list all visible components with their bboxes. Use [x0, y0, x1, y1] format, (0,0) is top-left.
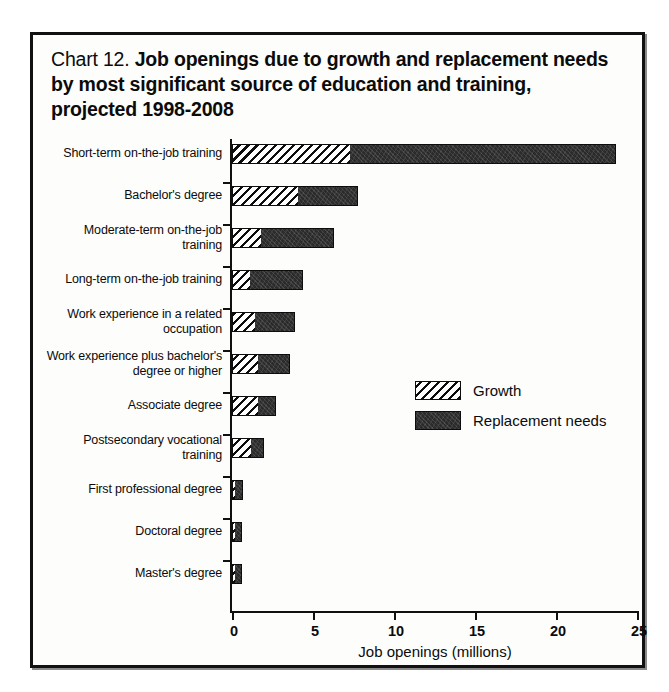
bar-row: Master's degree: [33, 561, 642, 603]
category-label: Bachelor's degree: [46, 188, 222, 203]
chart-title: Chart 12. Job openings due to growth and…: [51, 47, 611, 122]
bar-segment-growth: [232, 438, 251, 458]
bar-segment-growth: [232, 144, 350, 164]
category-label: Work experience plus bachelor's degree o…: [46, 349, 222, 378]
x-axis-tick-label: 20: [538, 623, 578, 639]
bar-segment-growth: [232, 396, 258, 416]
legend-item-growth: Growth: [415, 377, 625, 403]
x-axis-tick: [556, 611, 558, 620]
stacked-bar: [232, 186, 358, 206]
chart-title-main: Job openings due to growth and replaceme…: [51, 48, 608, 120]
x-axis-tick-label: 5: [295, 623, 335, 639]
bar-segment-replacement: [258, 396, 276, 416]
category-label: Postsecondary vocational training: [46, 433, 222, 462]
stacked-bar: [232, 354, 290, 374]
category-label: Associate degree: [46, 398, 222, 413]
bar-row: First professional degree: [33, 477, 642, 519]
bar-row: Long-term on-the-job training: [33, 267, 642, 309]
bar-segment-replacement: [255, 312, 296, 332]
x-axis-tick-label: 0: [214, 623, 254, 639]
bar-segment-growth: [232, 228, 261, 248]
category-label: Long-term on-the-job training: [46, 272, 222, 287]
chart-legend: Growth Replacement needs: [415, 377, 625, 437]
chart-figure-frame: Chart 12. Job openings due to growth and…: [30, 32, 645, 668]
stacked-bar: [232, 228, 334, 248]
bar-segment-replacement: [235, 480, 243, 500]
chart-title-prefix: Chart 12.: [51, 48, 135, 70]
bar-segment-replacement: [350, 144, 616, 164]
bar-segment-replacement: [261, 228, 334, 248]
x-axis-title: Job openings (millions): [232, 643, 638, 660]
replacement-swatch-icon: [415, 411, 461, 430]
bar-segment-replacement: [298, 186, 358, 206]
x-axis-tick-label: 10: [376, 623, 416, 639]
bar-segment-replacement: [251, 438, 264, 458]
legend-label-replacement: Replacement needs: [473, 412, 606, 429]
category-label: Short-term on-the-job training: [46, 146, 222, 161]
stacked-bar: [232, 396, 276, 416]
bar-segment-growth: [232, 270, 250, 290]
bar-row: Short-term on-the-job training: [33, 141, 642, 183]
bar-row: Work experience in a related occupation: [33, 309, 642, 351]
x-axis-tick: [232, 611, 234, 620]
x-axis-tick-label: 15: [457, 623, 497, 639]
legend-item-replacement: Replacement needs: [415, 407, 625, 433]
bar-segment-replacement: [235, 564, 242, 584]
category-label: Doctoral degree: [46, 524, 222, 539]
plot-area: Short-term on-the-job training Bachelor'…: [33, 139, 642, 663]
bar-row: Postsecondary vocational training: [33, 435, 642, 477]
bar-segment-replacement: [250, 270, 304, 290]
stacked-bar: [232, 312, 295, 332]
stacked-bar: [232, 564, 242, 584]
category-label: Master's degree: [46, 566, 222, 581]
x-axis-tick: [313, 611, 315, 620]
bar-segment-growth: [232, 354, 258, 374]
bar-row: Moderate-term on-the-job training: [33, 225, 642, 267]
stacked-bar: [232, 522, 242, 542]
bar-segment-replacement: [235, 522, 242, 542]
x-axis-tick: [394, 611, 396, 620]
category-label: Work experience in a related occupation: [46, 307, 222, 336]
growth-swatch-icon: [415, 381, 461, 400]
category-label: Moderate-term on-the-job training: [46, 223, 222, 252]
bar-segment-growth: [232, 186, 298, 206]
stacked-bar: [232, 144, 616, 164]
legend-label-growth: Growth: [473, 382, 521, 399]
x-axis-line: [232, 611, 638, 613]
x-axis-tick-label: 25: [619, 623, 659, 639]
stacked-bar: [232, 480, 243, 500]
category-label: First professional degree: [46, 482, 222, 497]
stacked-bar: [232, 270, 303, 290]
x-axis-tick: [475, 611, 477, 620]
bar-row: Doctoral degree: [33, 519, 642, 561]
x-axis-tick: [637, 611, 639, 620]
stacked-bar: [232, 438, 264, 458]
bar-segment-growth: [232, 312, 255, 332]
bar-segment-replacement: [258, 354, 290, 374]
bar-row: Bachelor's degree: [33, 183, 642, 225]
